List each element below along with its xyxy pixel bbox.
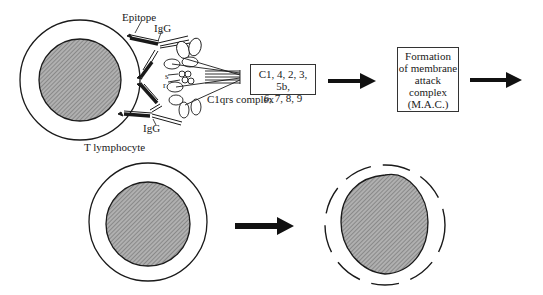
c1qrs-complex [164, 37, 240, 118]
r-label: r [163, 79, 166, 91]
cascade-line-2: 6, 7, 8, 9 [251, 92, 315, 104]
igg-label-bottom: IgG [143, 122, 160, 134]
diagram-canvas [0, 0, 543, 295]
cascade-line-1: C1, 4, 2, 3, 5b, [251, 68, 315, 92]
t-lymphocyte-top [20, 20, 140, 140]
mac-line-5: (M.A.C.) [398, 98, 458, 110]
t-lymphocyte-label: T lymphocyte [84, 141, 145, 153]
lysed-cell [325, 165, 445, 285]
arrow-right-icon [328, 73, 376, 89]
arrow-right-icon [235, 217, 294, 235]
mac-line-4: complex [398, 86, 458, 98]
arrow-right-icon [470, 72, 522, 88]
complement-cascade-box: C1, 4, 2, 3, 5b, 6, 7, 8, 9 [250, 64, 316, 95]
mac-line-1: Formation [398, 50, 458, 62]
mac-line-3: attack [398, 74, 458, 86]
mac-line-2: of membrane [398, 62, 458, 74]
intact-cell [89, 163, 207, 281]
igg-label-top: IgG [154, 22, 171, 34]
epitope-label: Epitope [122, 11, 156, 23]
mac-formation-box: Formation of membrane attack complex (M.… [397, 47, 459, 112]
